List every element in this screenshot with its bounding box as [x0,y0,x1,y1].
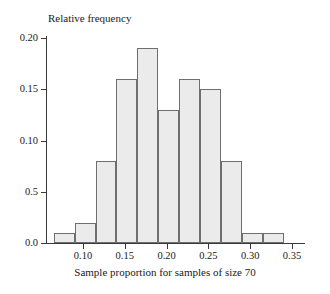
y-axis-tick-label-text: 0.10 [4,136,38,147]
y-axis-tick-label-text: 0.5 [4,187,38,198]
histogram-bar [179,79,200,243]
x-axis-tick-label: 0.35 [272,250,312,262]
y-axis-tick-label-text: 0.0 [4,238,38,249]
x-axis-tick-label: 0.30 [230,250,270,262]
y-axis-tick-label: 0.5 [0,187,38,198]
histogram-bar [137,48,158,243]
histogram-bar [263,233,284,243]
x-axis-tick [250,244,251,249]
x-axis-tick [292,244,293,249]
x-axis-tick-label: 0.10 [63,250,103,262]
histogram-bar [158,110,179,243]
plot-area: Relative frequency 0.00.50.100.150.20 0.… [0,0,330,294]
y-axis-tick [41,38,47,39]
histogram-bar [116,79,137,243]
y-axis-tick [41,141,47,142]
y-axis-tick-label-text: 0.15 [4,84,38,95]
y-axis-title: Relative frequency [48,12,131,25]
x-axis-tick [125,244,126,249]
histogram-bar [221,161,242,243]
x-axis-tick [167,244,168,249]
y-axis-tick-label: 0.10 [0,136,38,147]
x-axis-tick [208,244,209,249]
x-axis-tick-label: 0.25 [188,250,228,262]
y-axis-tick [41,89,47,90]
x-axis-tick-label: 0.15 [105,250,145,262]
histogram-bar [75,223,96,244]
y-axis-tick [41,192,47,193]
histogram-bar [54,233,75,243]
x-axis-tick [83,244,84,249]
histogram-figure: Relative frequency 0.00.50.100.150.20 0.… [0,0,330,294]
histogram-bar [200,89,221,243]
y-axis-tick-label: 0.15 [0,84,38,95]
y-axis-tick-label: 0.0 [0,238,38,249]
x-axis-tick-label: 0.20 [147,250,187,262]
y-axis-tick-label: 0.20 [0,33,38,44]
histogram-bar [242,233,263,243]
x-axis-line [46,243,305,244]
y-axis-tick [41,243,47,244]
histogram-bar [96,161,117,243]
y-axis-tick-label-text: 0.20 [4,33,38,44]
x-axis-title: Sample proportion for samples of size 70 [0,266,330,279]
